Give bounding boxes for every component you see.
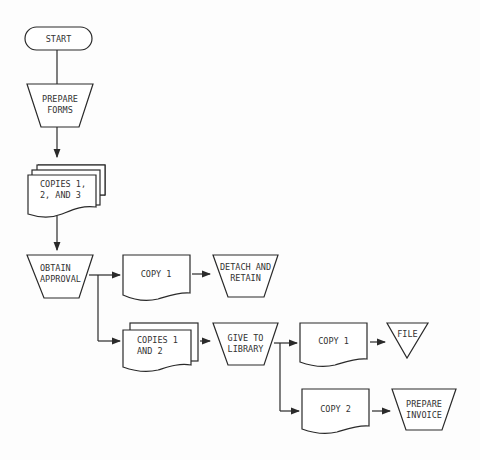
prepare-invoice-label-1: PREPARE bbox=[406, 399, 442, 409]
copies-1-2-3-label-2: 2, AND 3 bbox=[40, 190, 81, 200]
copy-2-label: COPY 2 bbox=[320, 404, 351, 414]
copies-1-and-2-document: COPIES 1 AND 2 bbox=[123, 323, 198, 371]
prepare-forms-operation: PREPARE FORMS bbox=[27, 84, 93, 127]
give-library-label-2: LIBRARY bbox=[228, 344, 264, 354]
file-label: FILE bbox=[397, 329, 417, 339]
obtain-approval-operation: OBTAIN APPROVAL bbox=[27, 255, 93, 298]
copies-1-2-3-label-1: COPIES 1, bbox=[40, 179, 86, 189]
detach-retain-label-2: RETAIN bbox=[230, 273, 261, 283]
detach-and-retain-operation: DETACH AND RETAIN bbox=[213, 255, 278, 297]
give-library-label-1: GIVE TO bbox=[228, 333, 264, 343]
obtain-approval-label-2: APPROVAL bbox=[40, 274, 81, 284]
prepare-invoice-operation: PREPARE INVOICE bbox=[392, 389, 456, 430]
prepare-invoice-label-2: INVOICE bbox=[406, 410, 442, 420]
start-terminal: START bbox=[25, 27, 92, 50]
copies-1-2-3-document: COPIES 1, 2, AND 3 bbox=[28, 165, 105, 217]
copy-1-library-document: COPY 1 bbox=[300, 323, 367, 366]
give-to-library-operation: GIVE TO LIBRARY bbox=[213, 323, 278, 365]
file-storage: FILE bbox=[387, 323, 428, 358]
copy-1-label: COPY 1 bbox=[141, 269, 172, 279]
copies-1-2-label-1: COPIES 1 bbox=[137, 335, 178, 345]
prepare-forms-label-1: PREPARE bbox=[42, 94, 78, 104]
detach-retain-label-1: DETACH AND bbox=[220, 262, 271, 272]
copy-2-document: COPY 2 bbox=[302, 389, 369, 433]
start-label: START bbox=[46, 34, 72, 44]
flowchart-canvas: START PREPARE FORMS COPIES 1, 2, AND 3 O… bbox=[0, 0, 480, 460]
copies-1-2-label-2: AND 2 bbox=[137, 346, 163, 356]
obtain-approval-label-1: OBTAIN bbox=[40, 263, 71, 273]
copy-1-document: COPY 1 bbox=[123, 255, 190, 300]
prepare-forms-label-2: FORMS bbox=[47, 105, 73, 115]
copy-1-library-label: COPY 1 bbox=[318, 336, 349, 346]
